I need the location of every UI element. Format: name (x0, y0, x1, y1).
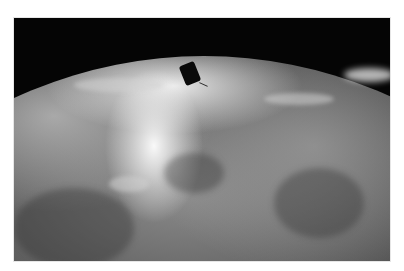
cloud-band (74, 78, 164, 92)
shadowed-region (164, 153, 224, 193)
shadowed-region (14, 188, 134, 262)
cloud-patch (109, 176, 149, 192)
cloud-band (264, 93, 334, 105)
earth-from-orbit-photo (13, 17, 391, 262)
horizon-glow (344, 68, 391, 82)
shadowed-region (274, 168, 364, 238)
